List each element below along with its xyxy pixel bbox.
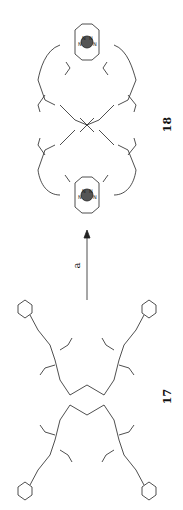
svg-text:N: N bbox=[78, 41, 82, 47]
svg-text:N: N bbox=[82, 35, 86, 41]
svg-text:N: N bbox=[82, 188, 86, 194]
compound-label-18: 18 bbox=[161, 117, 174, 132]
scheme-drawing: NN NN NN NN bbox=[0, 0, 183, 510]
compound-label-17: 17 bbox=[161, 389, 174, 404]
arrow-label: a bbox=[71, 263, 82, 269]
svg-text:N: N bbox=[78, 194, 82, 200]
svg-text:N: N bbox=[93, 41, 97, 47]
reaction-scheme: NN NN NN NN 18 a 17 bbox=[0, 0, 183, 510]
product-18-structure bbox=[38, 24, 136, 213]
svg-text:N: N bbox=[93, 194, 97, 200]
starting-material-17-structure bbox=[18, 300, 156, 500]
